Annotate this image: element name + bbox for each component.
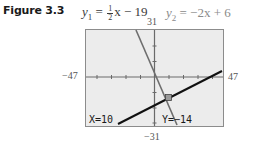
trace-cursor (166, 95, 172, 101)
x-readout: X=10 (89, 114, 113, 125)
plot-area (0, 0, 257, 147)
y-readout: Y=−14 (162, 114, 192, 125)
